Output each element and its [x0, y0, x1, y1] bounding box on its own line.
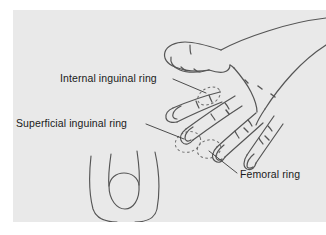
anatomical-illustration: Internal inguinal ring Superficial ingui…	[13, 10, 326, 222]
leader-internal-inguinal-ring	[173, 79, 206, 93]
thumb-web-curve	[209, 65, 230, 72]
hand-ulnar-border	[265, 45, 326, 109]
thumb-outline	[164, 42, 221, 71]
little-finger-upper-edge	[247, 116, 274, 155]
little-finger	[244, 116, 283, 170]
shading-tick-2	[258, 86, 262, 89]
thumb-lower-contour	[171, 57, 209, 72]
shading-tick-5	[244, 128, 248, 132]
thumb-web-tick	[230, 65, 234, 68]
label-internal-inguinal-ring: Internal inguinal ring	[60, 72, 157, 84]
leader-superficial-inguinal-ring	[146, 124, 184, 139]
illustration-panel: Internal inguinal ring Superficial ingui…	[13, 10, 326, 222]
femoral-ring-marker	[195, 137, 223, 161]
shading-tick-6	[265, 136, 269, 140]
ring-finger-crease	[235, 131, 239, 138]
testis-circle	[109, 173, 139, 209]
hand-dorsum-top-contour	[221, 18, 326, 50]
hand-dorsum-lower-contour	[234, 68, 257, 112]
label-superficial-inguinal-ring: Superficial inguinal ring	[16, 117, 127, 129]
groin-outline-group	[90, 151, 159, 222]
shading-tick-4	[226, 110, 229, 114]
hand-shading-marks	[226, 80, 275, 140]
fingers-group	[166, 80, 283, 170]
figure-root: Internal inguinal ring Superficial ingui…	[0, 0, 326, 235]
thumb-nail	[190, 45, 191, 54]
leader-femoral-ring	[209, 151, 237, 173]
middle-finger-crease	[211, 114, 215, 120]
superficial-ring-marker	[172, 128, 203, 156]
little-finger-lower-edge	[256, 124, 283, 163]
label-femoral-ring: Femoral ring	[240, 168, 300, 180]
middle-finger-knuckle	[225, 103, 229, 109]
groin-left-contour	[90, 156, 117, 222]
little-finger-crease	[259, 138, 263, 144]
ring-finger-knuckle	[248, 120, 252, 126]
little-finger-nail	[247, 154, 254, 168]
little-finger-knuckle	[268, 126, 272, 131]
hand-outline-group	[164, 18, 326, 125]
index-finger-knuckle	[209, 95, 212, 102]
